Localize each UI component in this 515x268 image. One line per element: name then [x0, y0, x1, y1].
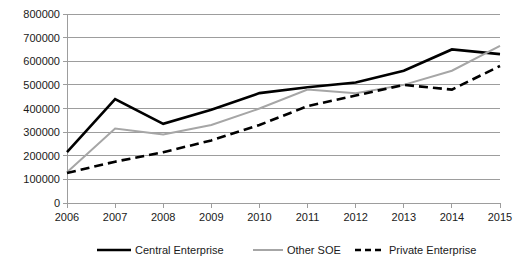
- y-axis-tick-label: 700000: [23, 32, 60, 44]
- legend-label-2: Private Enterprise: [389, 244, 476, 256]
- series-line-2: [67, 66, 500, 173]
- x-axis-tick-label: 2012: [343, 211, 367, 223]
- x-axis-tick-label: 2007: [103, 211, 127, 223]
- chart-canvas: 0100000200000300000400000500000600000700…: [0, 0, 515, 268]
- x-axis-tick-label: 2010: [247, 211, 271, 223]
- x-axis-tick-label: 2014: [440, 211, 464, 223]
- line-chart: 0100000200000300000400000500000600000700…: [0, 0, 515, 268]
- legend-label-1: Other SOE: [287, 244, 341, 256]
- x-axis-tick-label: 2006: [55, 211, 79, 223]
- x-axis-tick-label: 2015: [488, 211, 512, 223]
- x-axis-tick-label: 2011: [296, 211, 320, 223]
- x-axis-tick-label: 2008: [151, 211, 175, 223]
- y-axis-tick-label: 400000: [23, 103, 60, 115]
- y-axis-tick-label: 300000: [23, 126, 60, 138]
- legend-label-0: Central Enterprise: [135, 244, 224, 256]
- x-axis-tick-label: 2009: [199, 211, 223, 223]
- x-axis-tick-label: 2013: [392, 211, 416, 223]
- y-axis-tick-label: 600000: [23, 55, 60, 67]
- y-axis-tick-label: 800000: [23, 8, 60, 20]
- y-axis-tick-label: 200000: [23, 150, 60, 162]
- y-axis-tick-label: 0: [54, 197, 60, 209]
- y-axis-tick-label: 500000: [23, 79, 60, 91]
- y-axis-tick-label: 100000: [23, 173, 60, 185]
- series-line-0: [67, 49, 500, 152]
